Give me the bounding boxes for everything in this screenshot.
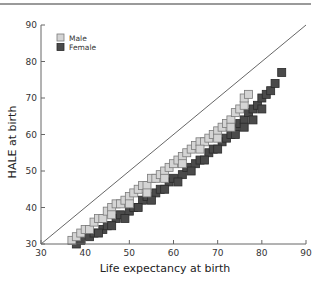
y-tick-label: 40 [26,203,38,213]
data-point-female [267,87,275,95]
y-tick-label: 70 [26,93,38,103]
y-tick-label: 60 [26,130,38,140]
data-point-female [161,185,169,193]
x-tick-label: 30 [35,248,47,258]
data-point-male [214,134,222,142]
data-point-female [200,156,208,164]
data-point-female [278,68,286,76]
data-point-female [94,229,102,237]
x-tick-label: 40 [79,248,91,258]
data-point-female [174,178,182,186]
x-tick-label: 80 [256,248,268,258]
reference-diagonal [41,25,306,244]
data-point-male [240,101,248,109]
data-point-male [143,182,151,190]
legend-swatch-male [57,34,64,41]
data-point-male [108,211,116,219]
x-tick-label: 90 [300,248,312,258]
data-point-male [125,200,133,208]
data-point-male [99,214,107,222]
data-point-male [227,123,235,131]
legend-swatch-female [57,44,64,51]
data-point-male [196,145,204,153]
x-tick-label: 60 [168,248,180,258]
data-point-male [227,116,235,124]
data-point-male [143,189,151,197]
data-points [68,68,286,248]
data-point-female [187,167,195,175]
y-axis-title: HALE at birth [6,106,19,179]
y-tick-label: 30 [26,239,38,249]
y-tick-label: 90 [26,20,38,30]
data-point-female [178,171,186,179]
data-point-female [121,214,129,222]
data-point-female [134,204,142,212]
y-ticks: 30405060708090 [26,20,45,249]
legend-label-male: Male [69,34,87,43]
data-point-female [240,123,248,131]
data-point-female [108,222,116,230]
y-tick-label: 80 [26,57,38,67]
x-tick-label: 70 [212,248,224,258]
data-point-male [245,90,253,98]
data-point-female [271,79,279,87]
data-point-male [161,174,169,182]
data-point-female [231,131,239,139]
x-axis-title: Life expectancy at birth [100,262,231,275]
scatter-chart: 30405060708090 30405060708090 Life expec… [0,0,323,283]
legend-label-female: Female [69,43,97,52]
data-point-female [240,116,248,124]
x-tick-label: 50 [124,248,136,258]
data-point-female [258,105,266,113]
data-point-female [249,116,257,124]
data-point-female [147,196,155,204]
data-point-male [86,225,94,233]
legend: Male Female [57,34,97,53]
y-tick-label: 50 [26,166,38,176]
data-point-female [214,145,222,153]
data-point-male [178,160,186,168]
